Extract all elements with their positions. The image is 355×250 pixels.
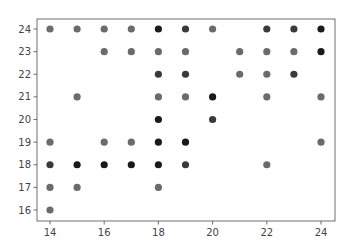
data-point (290, 25, 297, 32)
data-point (263, 71, 270, 78)
data-point (155, 25, 162, 32)
data-point (74, 161, 81, 168)
data-point (236, 71, 243, 78)
x-tick-label: 18 (152, 227, 165, 238)
data-point (182, 71, 189, 78)
y-tick-label: 18 (18, 159, 31, 170)
data-point (101, 25, 108, 32)
data-point (155, 71, 162, 78)
data-point (128, 25, 135, 32)
data-point (74, 184, 81, 191)
data-point (155, 184, 162, 191)
data-point (155, 116, 162, 123)
data-point (263, 25, 270, 32)
x-tick-label: 22 (260, 227, 273, 238)
data-point (46, 184, 53, 191)
data-point (101, 48, 108, 55)
y-tick-label: 19 (18, 137, 31, 148)
data-point (155, 139, 162, 146)
data-point (74, 25, 81, 32)
data-point (155, 48, 162, 55)
data-point (290, 71, 297, 78)
data-point (209, 116, 216, 123)
data-point (263, 161, 270, 168)
data-point (46, 206, 53, 213)
y-tick-label: 21 (18, 91, 31, 102)
data-point (317, 139, 324, 146)
data-point (209, 25, 216, 32)
y-tick-label: 22 (18, 69, 31, 80)
y-tick-label: 16 (18, 205, 31, 216)
data-point (317, 25, 324, 32)
y-axis: 161718192021222324 (18, 24, 37, 216)
data-point (290, 48, 297, 55)
data-point (317, 93, 324, 100)
data-point (46, 139, 53, 146)
data-point (209, 93, 216, 100)
data-point (182, 25, 189, 32)
x-tick-label: 14 (44, 227, 57, 238)
y-tick-label: 20 (18, 114, 31, 125)
data-point (128, 139, 135, 146)
data-point (46, 25, 53, 32)
x-tick-label: 16 (98, 227, 111, 238)
y-tick-label: 23 (18, 46, 31, 57)
x-axis: 141618202224 (44, 221, 328, 238)
data-point (46, 161, 53, 168)
data-point (128, 161, 135, 168)
x-tick-label: 24 (315, 227, 328, 238)
data-point (263, 93, 270, 100)
data-point (182, 161, 189, 168)
data-point (128, 48, 135, 55)
data-point (182, 48, 189, 55)
data-point (155, 93, 162, 100)
scatter-chart: 141618202224 161718192021222324 (0, 0, 355, 250)
data-point (101, 139, 108, 146)
x-tick-label: 20 (206, 227, 219, 238)
data-point (182, 139, 189, 146)
data-point (155, 161, 162, 168)
data-point (74, 93, 81, 100)
y-tick-label: 24 (18, 24, 31, 35)
data-point (263, 48, 270, 55)
data-point (236, 48, 243, 55)
data-point (101, 161, 108, 168)
data-point (317, 48, 324, 55)
data-point (182, 93, 189, 100)
y-tick-label: 17 (18, 182, 31, 193)
